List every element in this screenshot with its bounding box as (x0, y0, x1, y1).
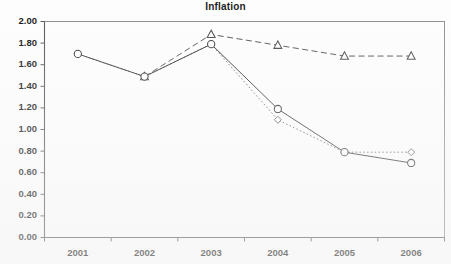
y-axis-tick-label: 0.80 (1, 145, 37, 156)
data-point-marker (408, 149, 415, 156)
x-axis-tick-label: 2006 (388, 247, 434, 258)
series-line (78, 44, 411, 152)
y-axis-tick-label: 2.00 (1, 15, 37, 26)
axis-layer (41, 22, 445, 242)
data-point-marker (141, 73, 148, 80)
y-axis-tick-label: 1.20 (1, 101, 37, 112)
x-axis-tick-label: 2005 (322, 247, 368, 258)
data-point-marker (407, 52, 415, 59)
x-axis-tick-label: 2001 (55, 247, 101, 258)
chart-plot-area (0, 0, 451, 264)
x-axis-tick-label: 2003 (188, 247, 234, 258)
series-line (78, 44, 411, 163)
y-axis-tick-label: 1.60 (1, 58, 37, 69)
y-axis-tick-label: 0.20 (1, 209, 37, 220)
y-axis-tick-label: 1.40 (1, 80, 37, 91)
series-series-diamond-dotted (74, 41, 414, 156)
data-point-marker (74, 50, 81, 57)
chart-container: Inflation 0.000.200.400.600.801.001.201.… (0, 0, 451, 264)
data-point-marker (274, 105, 281, 112)
data-point-marker (207, 30, 215, 37)
series-series-triangle-dashed (141, 30, 416, 80)
series-series-circle-solid (74, 41, 415, 167)
y-axis-tick-label: 1.00 (1, 123, 37, 134)
y-axis-tick-label: 0.60 (1, 166, 37, 177)
data-point-marker (274, 116, 281, 123)
data-point-marker (408, 159, 415, 166)
data-point-marker (208, 41, 215, 48)
y-axis-tick-label: 1.80 (1, 37, 37, 48)
data-point-marker (341, 149, 348, 156)
x-axis-tick-label: 2004 (255, 247, 301, 258)
x-axis-tick-label: 2002 (122, 247, 168, 258)
y-axis-tick-label: 0.00 (1, 231, 37, 242)
plot-frame (45, 22, 445, 238)
y-axis-tick-label: 0.40 (1, 188, 37, 199)
series-layer (74, 30, 415, 166)
